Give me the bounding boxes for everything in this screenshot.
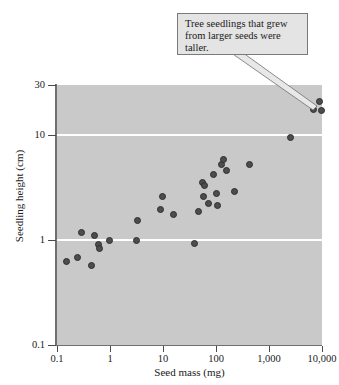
data-point <box>134 217 141 224</box>
data-point <box>316 98 323 105</box>
callout-box: Tree seedlings that grew from larger see… <box>177 13 308 55</box>
y-axis-label: Seedling height (cm) <box>13 126 25 266</box>
data-point <box>246 161 253 168</box>
data-point <box>106 237 113 244</box>
y-tick-label: 10 <box>35 130 46 141</box>
data-point <box>91 232 98 239</box>
data-point <box>170 211 177 218</box>
y-tick-label: 1 <box>40 235 45 246</box>
y-tick-mark <box>48 135 56 136</box>
y-tick-label: 30 <box>35 80 46 91</box>
y-axis-line <box>55 84 57 346</box>
x-tick-mark <box>216 346 217 352</box>
x-tick-mark <box>269 346 270 352</box>
x-tick-label: 10,000 <box>308 354 337 365</box>
data-point <box>74 254 81 261</box>
data-point <box>213 190 220 197</box>
scatter-plot-figure: 301010.1 0.11101001,00010,000 Seedling h… <box>0 0 339 385</box>
callout-text: Tree seedlings that grew from larger see… <box>185 18 301 55</box>
y-tick-label: 0.1 <box>32 340 45 351</box>
data-point <box>205 200 212 207</box>
data-point <box>133 237 140 244</box>
data-point <box>318 107 325 114</box>
x-tick-label: 0.1 <box>50 354 63 365</box>
y-tick-mark <box>48 240 56 241</box>
data-point <box>96 245 103 252</box>
x-tick-mark <box>322 346 323 352</box>
plot-area <box>57 85 322 345</box>
data-point <box>214 202 221 209</box>
x-tick-label: 10 <box>158 354 169 365</box>
x-axis-line <box>55 345 322 346</box>
y-tick-mark <box>48 85 56 86</box>
x-tick-label: 1,000 <box>257 354 281 365</box>
data-point <box>200 193 207 200</box>
x-tick-label: 1 <box>107 354 112 365</box>
x-axis-label: Seed mass (mg) <box>57 366 322 378</box>
data-point <box>159 193 166 200</box>
x-tick-label: 100 <box>208 354 224 365</box>
x-tick-mark <box>57 346 58 352</box>
x-tick-mark <box>110 346 111 352</box>
data-point <box>210 171 217 178</box>
gridline-y <box>57 134 322 136</box>
x-tick-mark <box>163 346 164 352</box>
y-tick-mark <box>48 345 56 346</box>
